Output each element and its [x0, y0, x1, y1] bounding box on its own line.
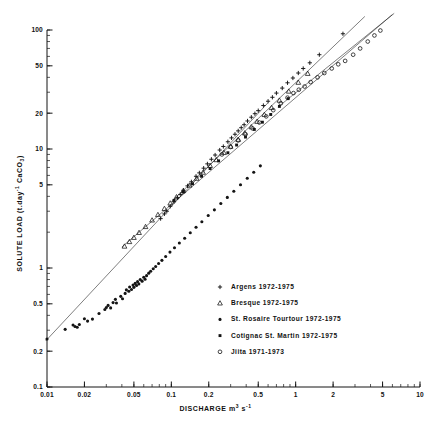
x-tick-label: 0.2 — [204, 391, 214, 398]
data-point — [132, 235, 137, 239]
y-tick-label: 5 — [39, 181, 43, 188]
data-point — [194, 226, 197, 229]
legend-label: Argens 1972-1975 — [231, 283, 294, 291]
data-point — [137, 282, 140, 285]
data-point — [379, 29, 383, 33]
x-tick-label: 10 — [416, 391, 424, 398]
data-point — [141, 280, 144, 283]
legend-marker-triangle-icon — [218, 301, 223, 305]
data-point — [209, 167, 212, 170]
data-point — [330, 67, 334, 71]
data-point — [45, 337, 48, 340]
legend-item-3: Cotignac St. Martin 1972-1975 — [219, 332, 338, 340]
x-tick-label: 2 — [331, 391, 335, 398]
data-point — [259, 164, 262, 167]
data-point — [200, 220, 203, 223]
x-tick-label: 0.5 — [253, 391, 263, 398]
solute-load-vs-discharge-chart: 0.010.020.050.10.20.5125100.10.20.515102… — [0, 0, 443, 437]
data-point — [343, 59, 347, 63]
data-point — [124, 292, 127, 295]
legend-label: St. Rosaire Tourtour 1972-1975 — [231, 315, 341, 322]
data-point — [128, 285, 131, 288]
data-point — [149, 270, 152, 273]
y-tick-label: 0.5 — [33, 300, 43, 307]
data-point — [157, 262, 160, 265]
data-point — [366, 40, 370, 44]
data-point — [373, 34, 377, 38]
x-tick-label: 5 — [381, 391, 385, 398]
data-point — [144, 278, 147, 281]
data-point — [336, 62, 340, 66]
legend-marker-circle-icon — [218, 350, 222, 354]
y-tick-label: 0.1 — [33, 383, 43, 390]
data-point — [217, 159, 220, 162]
data-point — [121, 297, 124, 300]
trendline — [122, 14, 393, 247]
data-point — [351, 53, 355, 57]
x-tick-label: 0.05 — [127, 391, 141, 398]
data-point — [235, 144, 238, 147]
data-point — [109, 306, 112, 309]
data-point — [76, 326, 79, 329]
data-point — [213, 208, 216, 211]
data-series-layer — [45, 13, 394, 340]
data-point — [173, 199, 176, 202]
y-tick-label: 1 — [39, 264, 43, 271]
legend-marker-square-icon — [219, 334, 222, 337]
data-point — [189, 231, 192, 234]
data-point — [112, 301, 115, 304]
data-point — [269, 113, 272, 116]
data-point — [127, 239, 132, 243]
data-point — [162, 206, 167, 210]
data-point — [252, 171, 255, 174]
legend-item-2: St. Rosaire Tourtour 1972-1975 — [218, 315, 341, 322]
data-point — [219, 202, 222, 205]
data-point — [226, 151, 229, 154]
legend-item-1: Bresque 1972-1975 — [218, 299, 299, 307]
x-tick-label: 1 — [294, 391, 298, 398]
legend-item-4: Jiita 1971-1973 — [218, 348, 284, 355]
data-point — [132, 286, 135, 289]
data-point — [86, 320, 89, 323]
legend: Argens 1972-1975Bresque 1972-1975St. Ros… — [218, 283, 342, 355]
y-tick-label: 100 — [31, 26, 43, 33]
data-point — [232, 190, 235, 193]
data-point — [127, 290, 130, 293]
data-point — [107, 304, 110, 307]
data-point — [173, 246, 176, 249]
data-point — [207, 214, 210, 217]
legend-label: Jiita 1971-1973 — [231, 348, 284, 355]
data-point — [78, 323, 81, 326]
x-axis-title: DISCHARGE m3 s-1 — [179, 403, 251, 412]
series-0 — [159, 16, 365, 220]
x-tick-label: 0.1 — [166, 391, 176, 398]
data-point — [182, 191, 185, 194]
data-point — [226, 196, 229, 199]
legend-item-0: Argens 1972-1975 — [218, 283, 294, 291]
data-point — [91, 318, 94, 321]
data-point — [296, 80, 301, 84]
data-point — [97, 312, 100, 315]
trendline — [171, 16, 365, 201]
data-point — [152, 267, 155, 270]
legend-label: Bresque 1972-1975 — [231, 299, 298, 307]
y-tick-label: 10 — [35, 145, 43, 152]
legend-marker-dot-icon — [218, 318, 221, 321]
data-point — [297, 88, 301, 92]
data-point — [83, 317, 86, 320]
y-tick-label: 0.2 — [33, 348, 43, 355]
data-point — [115, 301, 118, 304]
data-point — [164, 255, 167, 258]
data-point — [154, 265, 157, 268]
figure-container: 0.010.020.050.10.20.5125100.10.20.515102… — [0, 0, 443, 437]
data-point — [114, 298, 117, 301]
data-point — [246, 177, 249, 180]
y-tick-label: 50 — [35, 62, 43, 69]
data-point — [178, 242, 181, 245]
data-point — [191, 182, 194, 185]
data-point — [305, 71, 310, 75]
data-point — [160, 259, 163, 262]
data-point — [64, 328, 67, 331]
x-tick-label: 0.02 — [78, 391, 92, 398]
y-axis-title: SOLUTE LOAD (t.day-1 CaCO3) — [14, 155, 25, 272]
